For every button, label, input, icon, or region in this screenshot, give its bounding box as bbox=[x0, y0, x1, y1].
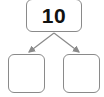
arrow-left-icon bbox=[29, 33, 54, 52]
left-part-box[interactable] bbox=[8, 54, 45, 93]
arrow-right-icon bbox=[54, 33, 79, 52]
right-part-box[interactable] bbox=[63, 54, 100, 93]
